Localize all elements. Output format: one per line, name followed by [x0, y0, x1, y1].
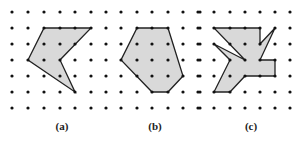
- lattice-dot: [26, 90, 29, 93]
- lattice-dot: [150, 106, 153, 109]
- lattice-dot: [181, 90, 184, 93]
- lattice-dot: [212, 90, 215, 93]
- lattice-dot: [104, 106, 107, 109]
- lattice-dot: [288, 26, 291, 29]
- lattice-dot: [258, 42, 261, 45]
- lattice-dot: [10, 58, 13, 61]
- lattice-dot: [135, 106, 138, 109]
- lattice-dot: [198, 74, 201, 77]
- lattice-dot: [10, 74, 13, 77]
- lattice-dot: [181, 58, 184, 61]
- lattice-dot: [42, 58, 45, 61]
- lattice-dot: [273, 90, 276, 93]
- lattice-dot: [26, 26, 29, 29]
- lattice-dot: [10, 90, 13, 93]
- lattice-dot: [58, 42, 61, 45]
- lattice-dot: [42, 90, 45, 93]
- lattice-dot: [166, 74, 169, 77]
- lattice-dot: [181, 26, 184, 29]
- lattice-dot: [89, 90, 92, 93]
- lattice-dot: [26, 58, 29, 61]
- lattice-dot: [273, 26, 276, 29]
- lattice-dot: [288, 106, 291, 109]
- lattice-dot: [73, 26, 76, 29]
- lattice-dot: [26, 74, 29, 77]
- lattice-dot: [166, 90, 169, 93]
- lattice-dot: [73, 10, 76, 13]
- lattice-dot: [212, 74, 215, 77]
- lattice-dot: [135, 10, 138, 13]
- lattice-dot: [42, 42, 45, 45]
- lattice-dot: [58, 90, 61, 93]
- panel-b-label: (b): [148, 120, 161, 132]
- lattice-dot: [135, 90, 138, 93]
- lattice-dot: [181, 42, 184, 45]
- lattice-dot: [135, 42, 138, 45]
- lattice-dot: [135, 58, 138, 61]
- lattice-dot: [228, 106, 231, 109]
- lattice-dot: [243, 26, 246, 29]
- lattice-dot: [119, 106, 122, 109]
- lattice-dot: [10, 26, 13, 29]
- lattice-dot: [73, 90, 76, 93]
- lattice-dot: [73, 74, 76, 77]
- lattice-dot: [288, 10, 291, 13]
- lattice-dot: [89, 74, 92, 77]
- lattice-dot: [42, 26, 45, 29]
- lattice-dot: [212, 58, 215, 61]
- lattice-dot: [150, 74, 153, 77]
- lattice-dot: [181, 10, 184, 13]
- lattice-dot: [26, 42, 29, 45]
- lattice-dot: [243, 10, 246, 13]
- lattice-dot: [166, 42, 169, 45]
- lattice-dot: [228, 42, 231, 45]
- panel-c: [198, 10, 291, 109]
- lattice-dot: [212, 26, 215, 29]
- lattice-dot: [104, 74, 107, 77]
- lattice-dot: [42, 10, 45, 13]
- lattice-dot: [58, 58, 61, 61]
- panel-b: [104, 10, 199, 109]
- panel-c-label: (c): [245, 120, 257, 132]
- lattice-dot: [228, 10, 231, 13]
- lattice-dot: [243, 42, 246, 45]
- lattice-dot: [89, 58, 92, 61]
- lattice-dot: [104, 58, 107, 61]
- lattice-dot: [212, 42, 215, 45]
- lattice-dot: [104, 90, 107, 93]
- lattice-dot: [212, 10, 215, 13]
- lattice-dot: [150, 42, 153, 45]
- lattice-dot: [104, 10, 107, 13]
- lattice-dot: [258, 106, 261, 109]
- lattice-dot: [198, 26, 201, 29]
- lattice-dot: [42, 106, 45, 109]
- lattice-dot: [119, 10, 122, 13]
- lattice-dot: [104, 26, 107, 29]
- lattice-dot: [198, 106, 201, 109]
- lattice-dot: [26, 10, 29, 13]
- lattice-dot: [273, 10, 276, 13]
- lattice-dot: [89, 42, 92, 45]
- lattice-dot: [89, 26, 92, 29]
- lattice-dot: [10, 10, 13, 13]
- lattice-dot: [243, 58, 246, 61]
- lattice-dot: [243, 74, 246, 77]
- lattice-dot: [42, 74, 45, 77]
- lattice-dot: [288, 74, 291, 77]
- lattice-dot: [258, 10, 261, 13]
- lattice-dot: [198, 10, 201, 13]
- lattice-dot: [166, 26, 169, 29]
- lattice-dot: [119, 26, 122, 29]
- lattice-dot: [166, 58, 169, 61]
- lattice-dot: [243, 106, 246, 109]
- lattice-dot: [166, 106, 169, 109]
- lattice-dot: [89, 10, 92, 13]
- lattice-dot: [166, 10, 169, 13]
- lattice-dot: [228, 90, 231, 93]
- lattice-dot: [181, 106, 184, 109]
- lattice-dot: [73, 58, 76, 61]
- lattice-dot: [119, 90, 122, 93]
- lattice-dot: [243, 90, 246, 93]
- lattice-dot: [58, 26, 61, 29]
- lattice-dot: [288, 90, 291, 93]
